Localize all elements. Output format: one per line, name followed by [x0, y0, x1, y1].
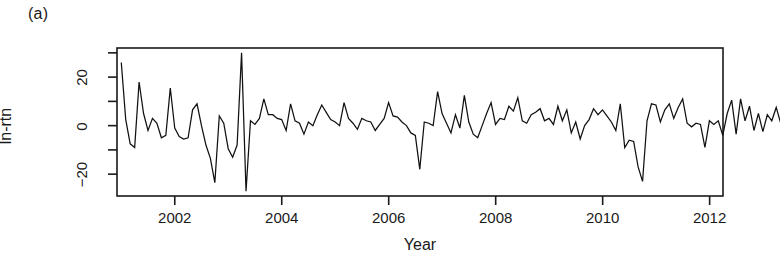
x-tick-label: 2012	[680, 210, 740, 225]
y-tick-label: 0	[74, 104, 89, 148]
x-tick-label: 2002	[145, 210, 205, 225]
x-tick-label: 2004	[252, 210, 312, 225]
data-series-ln-rtn	[121, 53, 780, 191]
figure-panel-a: (a) ln-rtn Year −20020 20022004200620082…	[0, 0, 780, 276]
x-tick-label: 2008	[466, 210, 526, 225]
x-tick-label: 2010	[573, 210, 633, 225]
x-axis-ticks	[175, 196, 710, 205]
y-tick-label: 20	[74, 56, 89, 100]
x-tick-label: 2006	[359, 210, 419, 225]
y-axis-ticks	[108, 53, 117, 174]
line-chart-plot	[0, 0, 780, 276]
y-tick-label: −20	[74, 153, 89, 197]
plot-frame	[117, 48, 723, 196]
